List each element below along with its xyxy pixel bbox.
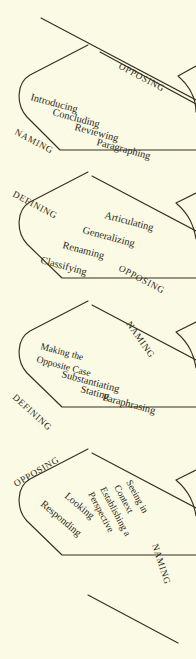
band-2-bottom-edge-label: OPPOSING [117,263,166,296]
band-3-right-edge [176,322,196,368]
band-1-right-edge [178,66,196,112]
band-1-bottom-edge-label: NAMING [13,127,55,156]
band-2-item-2: Renaming [61,239,105,261]
band-1-item-3: Paragraphing [95,136,151,161]
band-4-bottom-edge-label: NAMING [150,543,173,586]
band-4-top-edge-label: OPPOSING [12,455,61,489]
band-3-item-4: Paraphrasing [101,391,156,416]
band-2-top-edge-label: DEFINING [11,189,59,221]
diagram-page: OPPOSING NAMING DEFINING OPPOSING NAMING… [0,0,196,659]
band-4-right-edge [176,470,196,516]
zigzag-ribbon-diagram: OPPOSING NAMING DEFINING OPPOSING NAMING… [0,0,196,659]
band-2-right-edge [176,193,196,239]
top-tail-line [41,18,196,100]
band-2-item-3: Classifying [39,254,88,277]
bottom-tail-line [88,595,178,643]
band-3-bottom-edge-label: DEFINING [11,392,54,432]
band-1-top-edge-label: OPPOSING [117,61,166,94]
band-2-item-0: Articulating [103,209,154,233]
band-3-top-edge-label: NAMING [124,319,156,359]
